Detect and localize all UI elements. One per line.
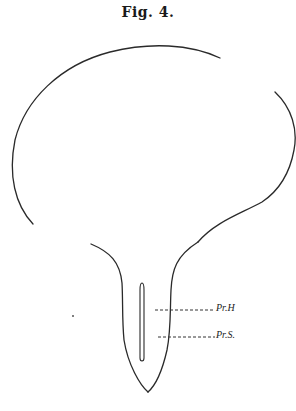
embryo-outline-drawing	[0, 0, 296, 411]
head-outline-right	[198, 92, 295, 242]
label-pr-s: Pr.S.	[216, 329, 235, 340]
primitive-streak	[140, 283, 144, 361]
head-outline-left	[12, 46, 220, 224]
stalk-outline-right	[148, 242, 198, 392]
speck	[72, 315, 74, 317]
label-pr-h: Pr.H	[216, 302, 235, 313]
